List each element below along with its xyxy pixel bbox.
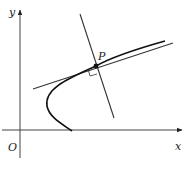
x-axis-label: x bbox=[175, 140, 182, 153]
point-p-label: P bbox=[97, 50, 106, 63]
y-axis-label: y bbox=[8, 6, 16, 19]
diagram-canvas: y x O P bbox=[0, 0, 185, 174]
origin-label: O bbox=[8, 141, 17, 154]
point-p bbox=[94, 64, 99, 69]
curve bbox=[47, 41, 165, 131]
